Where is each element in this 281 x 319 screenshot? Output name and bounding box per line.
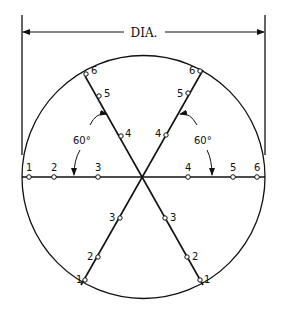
angle-label-right: 60° [194, 135, 212, 146]
diagonal-line-a [85, 76, 203, 285]
h-label-6: 6 [254, 162, 260, 173]
rt-label-6: 6 [189, 65, 195, 76]
lt-label-5: 5 [104, 88, 110, 99]
angle-arc-right-upper [180, 114, 197, 125]
lb-label-1: 1 [76, 274, 82, 285]
h-label-4: 4 [185, 162, 191, 173]
lb-label-2: 2 [87, 251, 93, 262]
h-label-3: 3 [95, 162, 101, 173]
lt-label-6: 6 [91, 65, 97, 76]
diameter-label: DIA. [131, 26, 158, 40]
h-label-2: 2 [51, 162, 57, 173]
rb-label-3: 3 [170, 212, 176, 223]
circle-division-diagram: DIA. 1 2 3 4 5 6 6 5 4 6 5 4 3 2 1 3 2 1… [0, 0, 281, 319]
lb-label-3: 3 [109, 212, 115, 223]
rb-label-1: 1 [204, 274, 210, 285]
rt-label-4: 4 [155, 128, 161, 139]
lt-label-4: 4 [125, 128, 131, 139]
h-label-1: 1 [26, 162, 32, 173]
h-label-5: 5 [230, 162, 236, 173]
angle-arc-left-lower [74, 150, 80, 175]
angle-label-left: 60° [73, 135, 91, 146]
rt-label-5: 5 [177, 88, 183, 99]
angle-arc-right-lower [207, 150, 212, 175]
rb-label-2: 2 [192, 251, 198, 262]
angle-arc-left-upper [90, 114, 107, 125]
